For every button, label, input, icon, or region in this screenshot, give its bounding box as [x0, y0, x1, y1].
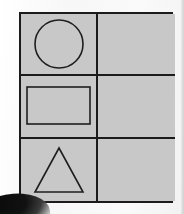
grid-cell-r1c2[interactable] — [98, 14, 175, 76]
triangle-icon — [22, 140, 96, 200]
rectangle-shape-wrap — [21, 76, 96, 136]
rectangle-icon — [22, 77, 95, 135]
grid-cell-r2c2[interactable] — [98, 76, 175, 138]
circle-shape-wrap — [21, 14, 96, 74]
grid-cell-r3c1[interactable] — [21, 139, 98, 201]
circle-icon — [23, 14, 95, 74]
scene-canvas — [0, 0, 184, 214]
sheet-right-edge — [181, 0, 184, 214]
grid-cell-r3c2[interactable] — [98, 139, 175, 201]
shapes-grid-table — [19, 12, 173, 203]
grid-cell-r1c1[interactable] — [21, 14, 98, 76]
grid-cell-r2c1[interactable] — [21, 76, 98, 138]
triangle-shape-wrap — [21, 139, 96, 201]
